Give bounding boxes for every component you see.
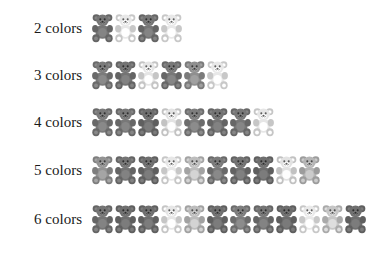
pictogram-row: 5 colors [0, 154, 368, 194]
gummy-bear-icon [91, 12, 114, 43]
gummy-bear-icon [206, 154, 229, 185]
gummy-bear-icon [91, 154, 114, 185]
gummy-bear-icon [183, 106, 206, 137]
gummy-bear-icon [252, 203, 275, 234]
gummy-bear-icon [137, 154, 160, 185]
pictogram-row: 4 colors [0, 106, 368, 146]
gummy-bear-icon [114, 106, 137, 137]
gummy-bear-icon [137, 59, 160, 90]
gummy-bear-icon [229, 106, 252, 137]
gummy-bear-icon [160, 154, 183, 185]
gummy-bear-icon [137, 12, 160, 43]
gummy-bear-icon [160, 203, 183, 234]
bear-icon-group [91, 59, 229, 93]
gummy-bear-icon [114, 59, 137, 90]
gummy-bear-icon [252, 106, 275, 137]
pictogram-row: 2 colors [0, 12, 368, 52]
row-label: 3 colors [0, 68, 82, 83]
gummy-bear-icon [206, 59, 229, 90]
gummy-bear-icon [160, 106, 183, 137]
pictogram-row: 6 colors [0, 203, 368, 243]
gummy-bear-icon [344, 203, 367, 234]
pictogram-row: 3 colors [0, 59, 368, 99]
row-label: 6 colors [0, 212, 82, 227]
bear-icon-group [91, 154, 321, 188]
gummy-bear-icon [137, 106, 160, 137]
gummy-bear-icon [229, 154, 252, 185]
gummy-bear-icon [114, 203, 137, 234]
gummy-bear-icon [114, 154, 137, 185]
gummy-bear-icon [298, 154, 321, 185]
gummy-bear-icon [298, 203, 321, 234]
gummy-bear-icon [183, 59, 206, 90]
gummy-bear-icon [183, 203, 206, 234]
gummy-bear-icon [91, 203, 114, 234]
row-label: 2 colors [0, 21, 82, 36]
gummy-bear-icon [206, 106, 229, 137]
gummy-bear-icon [91, 59, 114, 90]
gummy-bear-icon [137, 203, 160, 234]
gummy-bear-icon [91, 106, 114, 137]
gummy-bear-icon [252, 154, 275, 185]
gummy-bear-icon [275, 154, 298, 185]
gummy-bear-icon [229, 203, 252, 234]
gummy-bear-icon [160, 59, 183, 90]
bear-icon-group [91, 203, 367, 237]
row-label: 4 colors [0, 115, 82, 130]
gummy-bear-icon [183, 154, 206, 185]
gummy-bear-icon [114, 12, 137, 43]
gummy-bear-icon [321, 203, 344, 234]
pictogram-figure: 2 colors [0, 0, 368, 253]
gummy-bear-icon [275, 203, 298, 234]
bear-icon-group [91, 106, 275, 140]
bear-icon-group [91, 12, 183, 46]
gummy-bear-icon [206, 203, 229, 234]
gummy-bear-icon [160, 12, 183, 43]
row-label: 5 colors [0, 163, 82, 178]
